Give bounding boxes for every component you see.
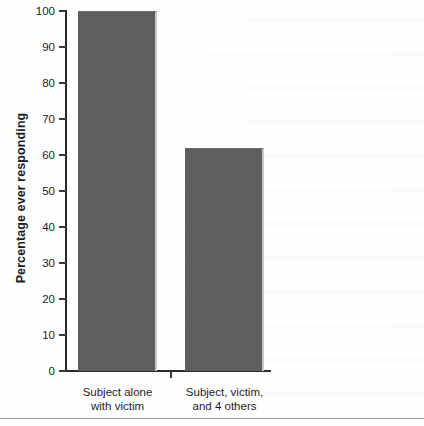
x-axis-category-label: Subject, victim,and 4 others [155,385,295,413]
y-axis-tick-label: 70 [25,113,55,125]
y-axis-title: Percentage ever responding [14,74,28,322]
y-axis-tick-label: 100 [25,5,55,17]
y-axis-tick [59,262,66,264]
bar [185,148,264,371]
y-axis-tick [59,190,66,192]
y-axis-tick-label: 60 [25,149,55,161]
y-axis-tick [59,370,66,372]
chart-figure: Percentage ever responding 0102030405060… [0,0,424,426]
y-axis-tick [59,82,66,84]
y-axis-tick-label: 50 [25,185,55,197]
y-axis-tick-label: 30 [25,257,55,269]
y-axis-tick [59,118,66,120]
y-axis-tick-label: 40 [25,221,55,233]
bar [78,11,157,371]
x-axis-category-label-line: Subject, victim, [155,385,295,399]
y-axis-tick [59,46,66,48]
x-axis-category-label-line: and 4 others [155,399,295,413]
y-axis-tick [59,154,66,156]
x-axis-center-tick [170,372,172,378]
y-axis-tick [59,226,66,228]
y-axis-tick-label: 80 [25,77,55,89]
y-axis-tick-label: 10 [25,329,55,341]
y-axis-tick [59,298,66,300]
y-axis-tick-label: 90 [25,41,55,53]
y-axis-tick-label: 0 [25,365,55,377]
y-axis-tick [59,10,66,12]
y-axis-tick [59,334,66,336]
page-footer-rule [0,418,424,419]
y-axis-tick-label: 20 [25,293,55,305]
